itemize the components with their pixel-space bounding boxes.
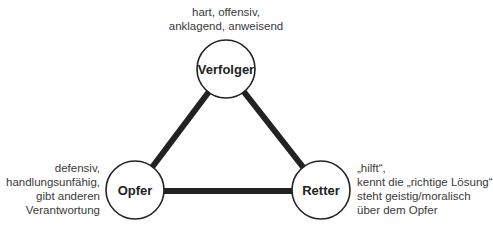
retter-description: „hilft“, kennt die „richtige Lösung“ ste… — [357, 161, 493, 217]
node-verfolger: Verfolger — [197, 40, 255, 98]
opfer-description: defensiv, handlungsunfähig, gibt anderen… — [0, 161, 100, 217]
verfolger-description: hart, offensiv, anklagend, anweisend — [146, 5, 306, 33]
description-line: steht geistig/moralisch — [357, 189, 493, 203]
node-label-verfolger: Verfolger — [198, 62, 254, 77]
node-label-opfer: Opfer — [118, 183, 153, 198]
description-line: hart, offensiv, — [146, 5, 306, 19]
description-line: gibt anderen — [0, 189, 100, 203]
description-line: Verantwortung — [0, 203, 100, 217]
description-line: kennt die „richtige Lösung“ — [357, 175, 493, 189]
description-line: über dem Opfer — [357, 203, 493, 217]
description-line: „hilft“, — [357, 161, 493, 175]
node-opfer: Opfer — [106, 161, 164, 219]
node-retter: Retter — [292, 161, 350, 219]
node-label-retter: Retter — [302, 183, 340, 198]
description-line: anklagend, anweisend — [146, 19, 306, 33]
description-line: defensiv, — [0, 161, 100, 175]
description-line: handlungsunfähig, — [0, 175, 100, 189]
